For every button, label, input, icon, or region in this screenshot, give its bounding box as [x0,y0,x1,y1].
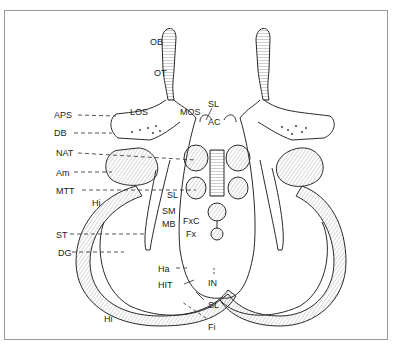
label-medial-olfactory-stria: MOS [180,107,201,117]
label-dentate-gyrus: DG [58,248,72,258]
lateral-olfactory-stria-right [264,100,330,116]
label-stria-lateralis-low: SL [208,300,219,310]
septal-nuclei [184,145,250,199]
label-stria-terminalis: ST [56,230,68,240]
olfactory-bulb-right [256,28,270,100]
anterior-perforated-substance-left [111,114,180,140]
label-stria-medullaris: SM [162,206,176,216]
label-interpeduncular-nucleus: IN [208,278,217,288]
label-stria-lateralis-top: SL [208,99,219,109]
label-stria-lateralis-mid: SL [167,190,178,200]
label-mammillothalamic-tract: MTT [56,186,75,196]
label-amygdala: Am [56,168,70,178]
label-olfactory-bulb: OB [150,37,163,47]
fimbria-right [220,222,327,315]
label-fimbria: Fi [208,322,216,332]
label-hippocampus-lower: Hi [104,314,113,324]
label-fornix-commissure: FxC [183,216,200,226]
label-anterior-perforated-substance: APS [54,110,72,120]
medial-olfactory-stria-right [240,100,260,118]
label-olfactory-tract: OT [154,68,167,78]
label-mammillary-body: MB [162,219,176,229]
label-anterior-commissure: AC [208,117,221,127]
label-lateral-olfactory-stria: LOS [130,107,148,117]
olfactory-bulb-left [162,28,176,100]
interpeduncular-nucleus [211,228,223,240]
label-habenula: Ha [158,264,170,274]
label-diagonal-band: DB [54,128,67,138]
mammillary-body [208,203,226,221]
anterior-perforated-substance-right [258,116,334,140]
label-hippocampus-upper: Hi [92,198,101,208]
label-nucleus-accumbens-tract: NAT [56,148,73,158]
amygdala-right [276,148,323,187]
label-fornix: Fx [186,229,196,239]
amygdala-left [106,148,158,185]
label-habenulo-interpeduncular-tract: HIT [158,280,173,290]
